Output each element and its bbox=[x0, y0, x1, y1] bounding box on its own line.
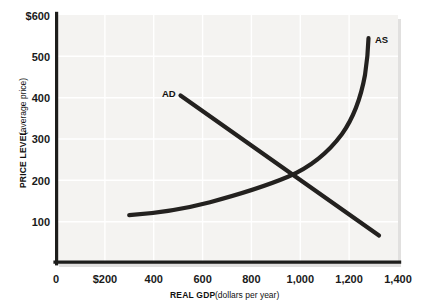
ytick-label-600: $600 bbox=[26, 10, 50, 22]
ytick-label-300: 300 bbox=[32, 133, 50, 145]
xtick-label-1200: 1,200 bbox=[335, 273, 363, 285]
chart-svg: $600 500 400 300 200 100 0 $200 400 600 … bbox=[0, 0, 426, 304]
xtick-label-1000: 1,000 bbox=[287, 273, 315, 285]
x-axis-title-bold: REAL GDP bbox=[170, 290, 215, 300]
xtick-label-0: 0 bbox=[53, 273, 59, 285]
xtick-label-200: $200 bbox=[93, 273, 117, 285]
xtick-label-600: 600 bbox=[193, 273, 211, 285]
xtick-label-400: 400 bbox=[145, 273, 163, 285]
ad-as-chart-figure: $600 500 400 300 200 100 0 $200 400 600 … bbox=[0, 0, 426, 304]
y-axis-tick-labels: $600 500 400 300 200 100 bbox=[26, 10, 50, 228]
as-curve-label: AS bbox=[375, 34, 388, 45]
ytick-label-400: 400 bbox=[32, 92, 50, 104]
y-axis-title: PRICE LEVEL (average price) bbox=[18, 78, 28, 188]
y-axis-title-regular: (average price) bbox=[18, 78, 28, 135]
x-axis-title: REAL GDP (dollars per year) bbox=[170, 290, 279, 300]
x-axis-title-regular: (dollars per year) bbox=[215, 290, 279, 300]
ytick-label-100: 100 bbox=[32, 216, 50, 228]
ytick-label-200: 200 bbox=[32, 175, 50, 187]
xtick-label-800: 800 bbox=[242, 273, 260, 285]
ytick-label-500: 500 bbox=[32, 51, 50, 63]
y-axis-title-bold: PRICE LEVEL bbox=[18, 130, 28, 188]
ad-curve-label: AD bbox=[162, 88, 176, 99]
xtick-label-1400: 1,400 bbox=[384, 273, 412, 285]
x-axis-tick-labels: 0 $200 400 600 800 1,000 1,200 1,400 bbox=[53, 273, 412, 285]
